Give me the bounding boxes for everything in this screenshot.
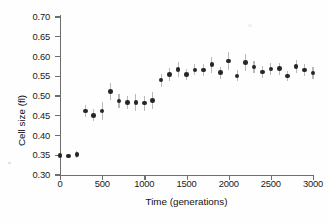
data-point bbox=[91, 113, 96, 118]
scan-artifact-top bbox=[248, 24, 252, 27]
x-tick-label: 500 bbox=[82, 179, 122, 188]
data-point bbox=[201, 68, 206, 73]
data-point bbox=[311, 71, 316, 76]
data-point bbox=[66, 154, 71, 159]
y-tick bbox=[55, 135, 60, 136]
y-axis-title-wrap: Cell size (fl) bbox=[8, 35, 22, 155]
plot-area bbox=[60, 17, 313, 175]
x-tick-label: 2500 bbox=[251, 179, 291, 188]
data-point bbox=[184, 72, 189, 77]
data-point bbox=[260, 70, 265, 75]
data-point bbox=[167, 72, 172, 77]
x-tick-label: 1500 bbox=[167, 179, 207, 188]
y-axis-line bbox=[60, 15, 61, 176]
x-tick-label: 3000 bbox=[293, 179, 329, 188]
y-tick bbox=[55, 36, 60, 37]
y-tick bbox=[55, 76, 60, 77]
x-tick-label: 2000 bbox=[209, 179, 249, 188]
chart-figure: 0.300.350.400.450.500.550.600.650.70 050… bbox=[0, 0, 329, 223]
data-point bbox=[108, 89, 113, 94]
y-tick-label: 0.30 bbox=[6, 170, 50, 179]
data-point bbox=[125, 100, 130, 105]
data-point bbox=[277, 66, 282, 71]
y-tick bbox=[55, 16, 60, 17]
data-point bbox=[75, 152, 80, 157]
y-tick bbox=[55, 95, 60, 96]
data-point bbox=[58, 153, 63, 158]
y-tick-label: 0.70 bbox=[6, 12, 50, 21]
x-axis-title: Time (generations) bbox=[60, 196, 313, 207]
data-point bbox=[302, 68, 307, 73]
y-axis-title: Cell size (fl) bbox=[16, 61, 27, 181]
x-tick-label: 1000 bbox=[124, 179, 164, 188]
y-tick bbox=[55, 115, 60, 116]
data-point bbox=[218, 70, 223, 75]
data-point bbox=[285, 74, 290, 79]
data-point bbox=[226, 59, 231, 64]
data-point bbox=[134, 100, 139, 105]
data-point bbox=[83, 109, 88, 114]
y-tick bbox=[55, 56, 60, 57]
data-point bbox=[243, 60, 248, 65]
data-point bbox=[210, 62, 215, 67]
data-point bbox=[142, 101, 147, 106]
x-tick-label: 0 bbox=[40, 179, 80, 188]
scan-artifact-left bbox=[8, 162, 11, 164]
